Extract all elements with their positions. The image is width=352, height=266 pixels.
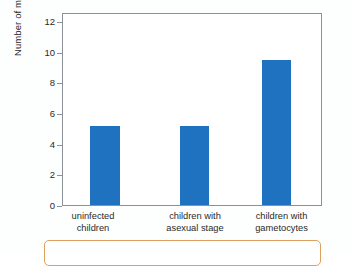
x-category-label-children-with-gametocytes: children with gametocytes (236, 211, 327, 234)
y-tick-label-8: 8 (15, 77, 55, 88)
bar-children-with-gametocytes (262, 60, 291, 205)
bar-uninfected-children (90, 126, 120, 205)
x-category-label-children-with-asexual-stage: children with asexual stage (147, 211, 243, 234)
y-tick-label-4: 4 (15, 139, 55, 150)
y-tick-label-0: 0 (15, 200, 55, 211)
y-tick-label-2: 2 (15, 169, 55, 180)
y-tick-label-12: 12 (15, 16, 55, 27)
plot-area (62, 13, 322, 206)
y-tick-label-6: 6 (15, 108, 55, 119)
x-category-label-uninfected-children: uninfected children (59, 211, 127, 234)
y-tick-mark-0 (57, 206, 62, 207)
bar-children-with-asexual-stage (180, 126, 209, 205)
y-tick-label-10: 10 (15, 47, 55, 58)
caption-box (44, 240, 321, 266)
